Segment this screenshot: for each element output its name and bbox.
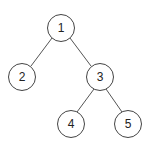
node-label: 3 (97, 70, 104, 84)
node-label: 2 (19, 70, 26, 84)
node-label: 1 (58, 21, 65, 35)
edge-3-4 (77, 89, 94, 112)
node-label: 4 (68, 117, 75, 131)
tree-node-3: 3 (87, 64, 114, 91)
binary-tree-diagram: 1 2 3 4 5 (0, 0, 152, 149)
tree-node-5: 5 (115, 111, 142, 138)
edge-3-5 (106, 89, 122, 112)
node-label: 5 (125, 117, 132, 131)
tree-node-2: 2 (9, 64, 36, 91)
edge-1-2 (31, 38, 52, 66)
tree-node-4: 4 (58, 111, 85, 138)
edge-1-3 (70, 38, 91, 66)
tree-node-1: 1 (48, 15, 75, 42)
